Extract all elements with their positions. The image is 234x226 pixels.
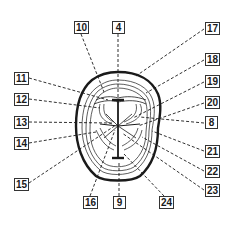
callout-label-23: 23 <box>205 184 220 197</box>
leader-line-24 <box>124 154 164 196</box>
callout-label-18: 18 <box>205 53 220 66</box>
callout-label-17: 17 <box>205 22 220 35</box>
callout-label-11: 11 <box>14 72 29 85</box>
tooth-diagram: 104171112131415181920821222316924 <box>0 0 234 226</box>
callout-label-12: 12 <box>14 93 29 106</box>
leader-line-17 <box>136 29 204 76</box>
callout-label-16: 16 <box>83 196 98 209</box>
leader-line-20 <box>138 103 204 126</box>
leader-line-23 <box>122 133 204 190</box>
callout-label-20: 20 <box>205 96 220 109</box>
callout-label-14: 14 <box>14 137 29 150</box>
callout-label-22: 22 <box>205 165 220 178</box>
callout-label-15: 15 <box>14 178 29 191</box>
callout-label-8: 8 <box>205 116 218 129</box>
leader-line-13 <box>29 122 112 123</box>
tooth-outline <box>76 72 160 181</box>
leader-line-10 <box>81 34 104 92</box>
callout-label-19: 19 <box>205 75 220 88</box>
callout-label-9: 9 <box>113 196 126 209</box>
callout-label-4: 4 <box>112 21 125 34</box>
callout-label-13: 13 <box>14 116 29 129</box>
leader-line-12 <box>29 99 100 108</box>
callout-label-24: 24 <box>159 196 174 209</box>
leader-line-11 <box>29 78 108 100</box>
leader-line-21 <box>152 131 204 151</box>
callout-label-21: 21 <box>205 145 220 158</box>
callout-label-10: 10 <box>74 21 89 34</box>
